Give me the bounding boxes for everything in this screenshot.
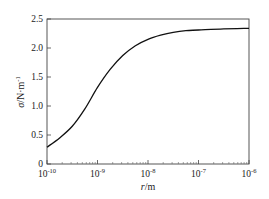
- x-tick-label: 10-6: [242, 167, 258, 179]
- y-tick-label: 0: [38, 159, 43, 169]
- x-axis-title: r/m: [141, 181, 156, 192]
- x-tick-label: 10-8: [141, 167, 156, 179]
- plot-frame: [47, 19, 249, 164]
- svg-text:r/m: r/m: [141, 181, 156, 192]
- data-line-sigma: [47, 28, 249, 147]
- chart: 10-1010-910-810-710-6 00.51.01.52.02.5 r…: [0, 0, 269, 199]
- x-tick-label: 10-7: [191, 167, 207, 179]
- svg-text:σ/N·m-1: σ/N·m-1: [14, 76, 26, 107]
- y-axis-title: σ/N·m-1: [14, 76, 26, 107]
- y-tick-label: 0.5: [31, 130, 43, 140]
- x-axis-ticks: 10-1010-910-810-710-6: [38, 160, 257, 179]
- y-tick-label: 2.0: [31, 43, 43, 53]
- y-tick-label: 2.5: [31, 14, 43, 24]
- y-tick-label: 1.5: [31, 72, 43, 82]
- x-tick-label: 10-9: [90, 167, 105, 179]
- y-tick-label: 1.0: [31, 101, 43, 111]
